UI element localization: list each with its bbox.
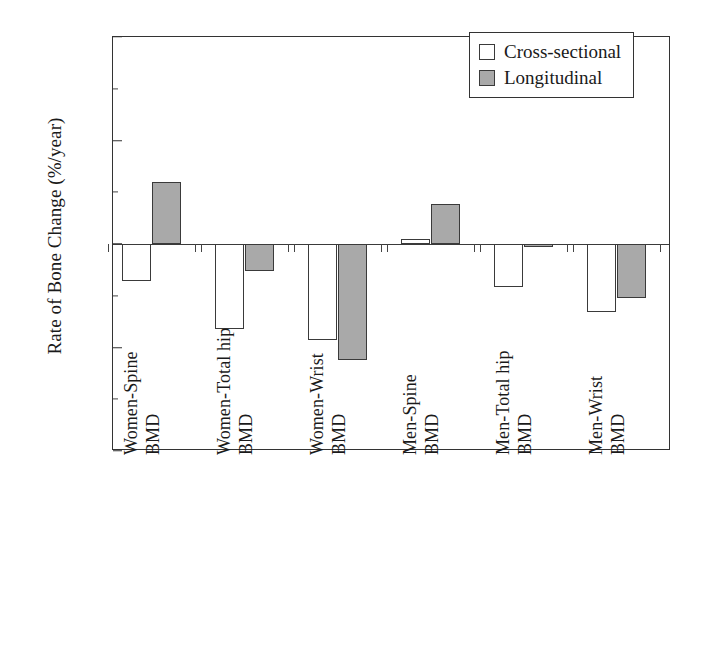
x-axis-tick [567,244,568,252]
x-axis-label-measure: BMD [329,414,350,455]
y-axis-tick-minor [113,399,118,400]
y-axis-tick-major [113,347,122,348]
y-axis-tick-major [113,36,122,37]
x-axis-label-name: Women-Total hip [214,328,235,455]
bar-longitudinal [152,182,181,244]
y-axis-title: Rate of Bone Change (%/year) [44,26,66,446]
filled-square-swatch-icon [479,70,495,86]
legend-label: Cross-sectional [504,41,621,63]
x-axis-tick [573,244,574,252]
x-axis-label-name: Men-Wrist [586,376,607,455]
x-axis-label-measure: BMD [422,414,443,455]
bar-longitudinal [524,244,553,247]
legend-item-cross-sectional: Cross-sectional [479,39,621,65]
bar-cross-sectional [215,244,244,329]
x-axis-tick [201,244,202,252]
open-square-swatch-icon [479,44,495,60]
x-axis-label-measure: BMD [608,414,629,455]
bar-cross-sectional [587,244,616,312]
legend-label: Longitudinal [504,67,602,89]
bone-change-bar-chart: Rate of Bone Change (%/year) 210-1-2 Wom… [0,0,704,645]
x-axis-label-name: Men-Total hip [493,350,514,455]
bar-longitudinal [431,204,460,244]
y-axis-tick-major [113,140,122,141]
bar-longitudinal [338,244,367,360]
bar-cross-sectional [122,244,151,281]
x-axis-tick [108,244,109,252]
bar-cross-sectional [308,244,337,340]
x-axis-tick [474,244,475,252]
bar-longitudinal [245,244,274,271]
x-axis-tick [660,244,661,252]
zero-baseline [113,244,669,245]
y-axis-tick-minor [113,88,118,89]
x-axis-tick [195,244,196,252]
x-axis-label-measure: BMD [236,414,257,455]
x-axis-label-name: Women-Spine [121,351,142,455]
bar-cross-sectional [494,244,523,287]
x-axis-label-name: Men-Spine [400,374,421,455]
x-axis-label-measure: BMD [143,414,164,455]
legend-item-longitudinal: Longitudinal [479,65,621,91]
x-axis-label-measure: BMD [515,414,536,455]
bar-longitudinal [617,244,646,298]
x-axis-tick [387,244,388,252]
x-axis-tick [480,244,481,252]
x-axis-tick [381,244,382,252]
chart-legend: Cross-sectional Longitudinal [469,32,634,98]
x-axis-tick [294,244,295,252]
y-axis-tick-minor [113,295,118,296]
bar-cross-sectional [401,239,430,244]
x-axis-tick [288,244,289,252]
x-axis-label-name: Women-Wrist [307,353,328,455]
y-axis-tick-minor [113,192,118,193]
